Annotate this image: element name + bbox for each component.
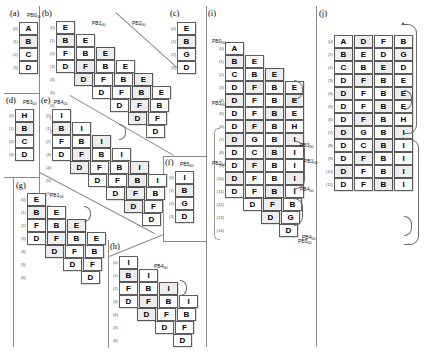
panel-c-pb-tag: PB200 xyxy=(132,20,145,26)
matrix-row: (3)D xyxy=(166,206,195,219)
matrix-row: (2)C xyxy=(6,131,35,144)
matrix-row: (4)DFB xyxy=(18,241,107,254)
matrix-row: (9)DFBI xyxy=(325,148,414,161)
arrowhead-j-mid xyxy=(401,137,405,140)
matrix-row: (1)B xyxy=(6,118,35,131)
matrix-cell-spacer xyxy=(155,335,172,346)
matrix-row: (7)DGBI xyxy=(325,122,414,135)
matrix-row: (3)D xyxy=(6,144,35,157)
side-tag-i-pb2: PB200 xyxy=(212,160,225,166)
matrix-row: (0)A xyxy=(216,38,305,51)
matrix-row: (0)I xyxy=(43,105,168,118)
divider-vertical-g xyxy=(13,177,14,347)
matrix-cell-spacer xyxy=(27,272,44,283)
divider-vertical-j xyxy=(316,6,317,347)
matrix-cell: F xyxy=(354,178,373,191)
matrix-row: (0)A xyxy=(10,18,39,31)
panel-h-label: (h) xyxy=(110,241,120,251)
matrix-row: (3)D xyxy=(168,57,197,70)
matrix-row: (0)E xyxy=(47,17,172,30)
matrix-row: (3)DFBE xyxy=(216,77,305,90)
matrix-row: (6)DFBH xyxy=(216,116,305,129)
matrix-row: (11)DFBI xyxy=(216,181,305,194)
matrix-cell-spacer xyxy=(243,225,260,236)
matrix-cell: D xyxy=(175,210,194,223)
panel-c-pb-sub: 00 xyxy=(141,23,145,27)
matrix-cell: D xyxy=(334,178,353,191)
divider-horizontal-f-bottom xyxy=(163,241,207,242)
panel-h-rows: (0)I(1)BI(2)FBI(3)DFBI(4)DFB(5)DF(6)D xyxy=(110,252,199,343)
matrix-row: (2)FBE xyxy=(18,215,107,228)
panel-g-rows: (0)E(1)BE(2)FBE(3)DFBE(4)DFB(5)DF(6)D xyxy=(18,189,107,280)
matrix-row: (0)E xyxy=(168,18,197,31)
matrix-row: (6)D xyxy=(18,267,107,280)
matrix-cell: D xyxy=(15,148,34,161)
matrix-row: (1)BE xyxy=(47,30,172,43)
matrix-cell: D xyxy=(81,271,100,284)
matrix-row: (6)D xyxy=(110,330,199,343)
brace-i-left xyxy=(214,128,220,240)
panel-e-label: (e) xyxy=(41,95,50,105)
row-index-label: (6) xyxy=(18,275,27,280)
matrix-row: (1)BI xyxy=(43,118,168,131)
matrix-row: (2)CBED xyxy=(325,57,414,70)
matrix-row: (10)DFBI xyxy=(325,161,414,174)
panel-i-label: (i) xyxy=(208,8,216,18)
matrix-row: (9)DFBI xyxy=(216,155,305,168)
panel-d-rows: (0)H(1)B(2)C(3)D xyxy=(6,105,35,157)
matrix-row: (8)DCBI xyxy=(216,142,305,155)
matrix-row: (4)DFBE xyxy=(216,90,305,103)
matrix-row: (7)DGBI xyxy=(216,129,305,142)
panel-a-label: (a) xyxy=(10,8,19,18)
matrix-row: (5)DFBE xyxy=(47,82,172,95)
matrix-row: (6)DFBH xyxy=(325,109,414,122)
matrix-row: (1)B xyxy=(166,180,195,193)
matrix-row: (2)G xyxy=(166,193,195,206)
matrix-row: (11)DFBI xyxy=(325,174,414,187)
matrix-row: (0)I xyxy=(166,167,195,180)
row-index-label: (11) xyxy=(325,182,334,187)
side-tag-i-pb0: PB000 xyxy=(212,38,225,44)
panel-c-rows: (0)E(1)B(2)G(3)D xyxy=(168,18,197,70)
matrix-cell-spacer xyxy=(45,272,62,283)
divider-horizontal-a-d xyxy=(4,93,40,94)
row-index-label: (6) xyxy=(110,338,119,343)
matrix-row: (13)DG xyxy=(216,207,305,220)
matrix-cell: D xyxy=(19,61,38,74)
matrix-row: (4)DFBI xyxy=(43,157,168,170)
matrix-row: (10)DFBI xyxy=(216,168,305,181)
matrix-cell-spacer xyxy=(119,335,136,346)
matrix-row: (5)DF xyxy=(110,317,199,330)
matrix-row: (2)G xyxy=(168,44,197,57)
matrix-cell-spacer xyxy=(137,335,154,346)
side-tag-i-pb3: PB300 xyxy=(300,142,313,148)
row-index-label: (3) xyxy=(10,65,19,70)
matrix-row: (4)DFBE xyxy=(47,69,172,82)
matrix-row: (1)BE xyxy=(216,51,305,64)
loop-arrow-i-2 xyxy=(294,141,305,189)
side-tag-j-pb4: PB400 xyxy=(302,234,315,240)
matrix-row: (1)B xyxy=(10,31,39,44)
panel-d-label: (d) xyxy=(6,95,16,105)
side-tag-i-pb4: PB400 xyxy=(300,186,313,192)
side-tag-i-pb1: PB100 xyxy=(212,100,225,106)
row-index-label: (3) xyxy=(168,65,177,70)
matrix-cell-spacer xyxy=(261,225,278,236)
matrix-row: (3)D xyxy=(10,57,39,70)
matrix-cell-spacer xyxy=(124,214,141,225)
matrix-row: (0)H xyxy=(6,105,35,118)
panel-f-rows: (0)I(1)B(2)G(3)D xyxy=(166,167,195,219)
matrix-cell-spacer xyxy=(106,214,123,225)
arrowhead-j-top xyxy=(401,22,405,25)
panel-j-rows: (0)ADFB(1)BEDG(2)CBED(3)DFBE(4)DFBE(5)DF… xyxy=(325,31,414,187)
matrix-row: (1)BE xyxy=(18,202,107,215)
matrix-row: (2)C xyxy=(10,44,39,57)
divider-horizontal-d-g xyxy=(4,177,40,178)
matrix-row: (1)BEDG xyxy=(325,44,414,57)
matrix-row: (14)D xyxy=(216,220,305,233)
matrix-cell: B xyxy=(374,178,393,191)
matrix-row: (1)BI xyxy=(110,265,199,278)
matrix-cell: D xyxy=(177,61,196,74)
matrix-row: (2)FBE xyxy=(47,43,172,56)
row-index-label: (3) xyxy=(166,214,175,219)
